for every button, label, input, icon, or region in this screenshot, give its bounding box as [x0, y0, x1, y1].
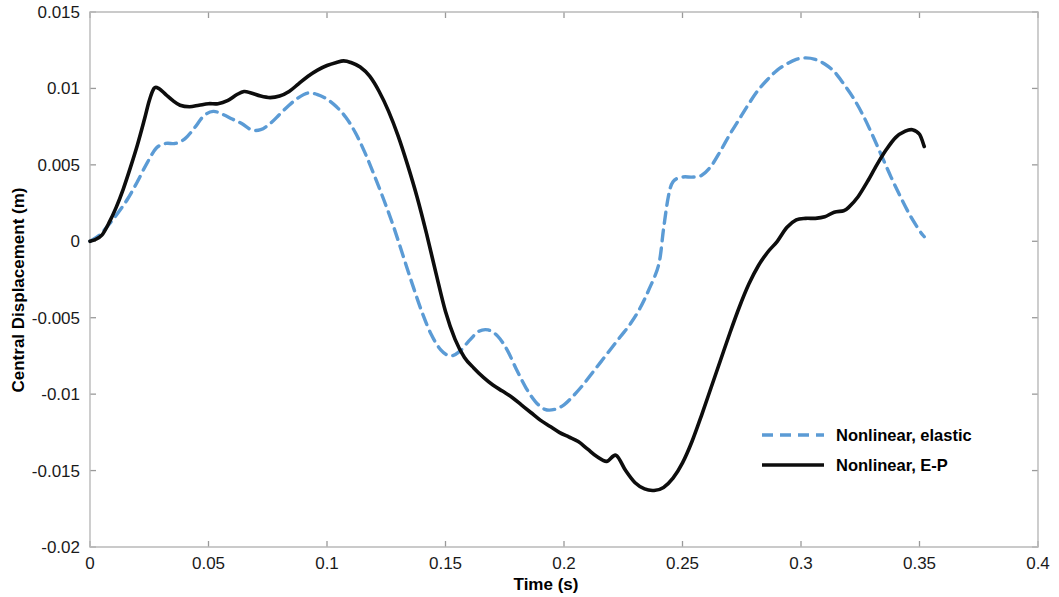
y-tick-label: 0.015	[37, 3, 80, 22]
data-series-group	[90, 58, 924, 491]
y-axis-tick-labels: -0.02-0.015-0.01-0.00500.0050.010.015	[32, 3, 80, 557]
x-tick-label: 0	[85, 554, 94, 573]
series-line-2	[90, 61, 924, 491]
y-tick-label: 0.01	[47, 79, 80, 98]
legend-label-2: Nonlinear, E-P	[836, 456, 948, 474]
x-tick-label: 0.35	[903, 554, 936, 573]
series-line-1	[90, 58, 924, 410]
x-tick-label: 0.15	[429, 554, 462, 573]
y-tick-label: -0.01	[41, 385, 80, 404]
x-tick-label: 0.2	[552, 554, 576, 573]
y-axis-title: Central Displacement (m)	[9, 188, 28, 393]
x-tick-label: 0.4	[1026, 554, 1050, 573]
legend-label-1: Nonlinear, elastic	[836, 426, 972, 444]
chart-legend: Nonlinear, elasticNonlinear, E-P	[762, 426, 972, 474]
x-tick-label: 0.25	[666, 554, 699, 573]
y-tick-label: -0.02	[41, 538, 80, 557]
x-axis-tick-labels: 00.050.10.150.20.250.30.350.4	[85, 554, 1050, 573]
chart-figure: 00.050.10.150.20.250.30.350.4 -0.02-0.01…	[0, 0, 1059, 597]
y-tick-label: 0.005	[37, 156, 80, 175]
y-tick-label: -0.015	[32, 462, 80, 481]
x-tick-label: 0.05	[192, 554, 225, 573]
y-tick-label: 0	[71, 232, 80, 251]
x-tick-label: 0.1	[315, 554, 339, 573]
x-tick-label: 0.3	[789, 554, 813, 573]
line-chart: 00.050.10.150.20.250.30.350.4 -0.02-0.01…	[0, 0, 1059, 597]
y-tick-label: -0.005	[32, 309, 80, 328]
x-axis-title: Time (s)	[514, 575, 579, 594]
